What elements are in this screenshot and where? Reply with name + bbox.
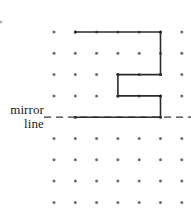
vertex-dot [116,73,119,76]
grid-dot [138,52,141,55]
grid-dot [159,201,162,204]
grid-dot [138,137,141,140]
grid-dot [53,180,56,183]
vertex-dot [74,31,77,34]
grid-dot [180,52,183,55]
vertex-dot [159,94,162,97]
grid-dot [95,52,98,55]
grid-dot [180,158,183,161]
figure-canvas: mirror line [0,0,191,209]
grid-dot [53,52,56,55]
grid-dot [95,94,98,97]
vertex-dot [74,116,77,119]
grid-dot-corner [0,21,2,24]
grid-dot [53,158,56,161]
grid-dot [180,201,183,204]
grid-dot [116,52,119,55]
grid-dot [53,137,56,140]
grid-dot [116,158,119,161]
grid-dot [138,201,141,204]
grid-dot [180,180,183,183]
grid-dot [74,201,77,204]
grid-dot [95,201,98,204]
grid-dot [95,73,98,76]
grid-dot [74,137,77,140]
mirror-line-label: mirror line [0,103,44,131]
grid-dot [116,201,119,204]
vertex-dot [159,31,162,34]
grid-dot [180,73,183,76]
grid-dot [159,180,162,183]
grid-dot [74,73,77,76]
grid-dot [95,180,98,183]
dot-grid-below [53,137,184,204]
grid-dot [53,73,56,76]
grid-dot [180,31,183,34]
mirror-line-label-line1: mirror [0,103,44,117]
grid-dot [74,52,77,55]
grid-dot [138,158,141,161]
mirror-line-label-line2: line [0,117,44,131]
vertex-dot [159,116,162,119]
grid-dot [180,137,183,140]
grid-dot [74,94,77,97]
vertex-dot [116,94,119,97]
vertex-dot [159,73,162,76]
grid-dot [138,180,141,183]
grid-dot [53,31,56,34]
grid-dot [159,158,162,161]
grid-dot [116,180,119,183]
grid-dot [159,137,162,140]
grid-dot [95,158,98,161]
grid-dot [53,94,56,97]
grid-dot [74,158,77,161]
grid-dot [95,137,98,140]
grid-dot [180,94,183,97]
grid-dot [74,180,77,183]
grid-dot [116,137,119,140]
grid-dot [53,201,56,204]
